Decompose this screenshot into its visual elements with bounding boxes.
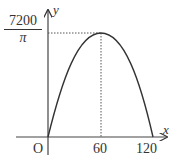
x-tick-60: 60 [93,141,107,157]
y-max-numerator: 7200 [4,13,42,30]
y-axis-label: y [53,2,59,18]
origin-label: O [33,141,43,157]
y-max-label: 7200 π [4,13,42,45]
x-tick-120: 120 [136,141,157,157]
y-max-denominator: π [4,30,42,45]
x-axis-label: x [163,122,169,138]
